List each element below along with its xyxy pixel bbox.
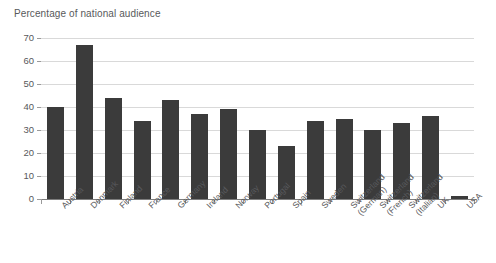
bar-slot	[243, 38, 272, 199]
chart-title: Percentage of national audience	[14, 8, 161, 19]
bar-slot	[272, 38, 301, 199]
x-axis-label-spain: Spain	[291, 204, 298, 211]
x-axis-label-ireland: Ireland	[205, 204, 212, 211]
x-axis-label-switzerland-french: Switzerland(French)	[378, 204, 392, 218]
x-axis-label-portugal: Portugal	[263, 204, 270, 211]
y-axis-tick-label-40: 40	[23, 102, 34, 112]
bar-slot	[156, 38, 185, 199]
x-axis-label-sweden: Sweden	[320, 204, 327, 211]
bar-slot	[99, 38, 128, 199]
bar-austria[interactable]	[47, 107, 64, 199]
x-axis-label-uk: UK	[436, 204, 443, 211]
bar-denmark[interactable]	[76, 45, 93, 199]
y-axis-tick-label-70: 70	[23, 33, 34, 43]
bar-slot	[185, 38, 214, 199]
x-axis-label-germany: Germany	[176, 204, 183, 211]
x-axis-label-usa: USA	[465, 204, 472, 211]
bar-slot	[330, 38, 359, 199]
x-axis-label-austria: Austria	[60, 204, 67, 211]
y-axis-tick-label-20: 20	[23, 148, 34, 158]
y-axis-tick-label-10: 10	[23, 171, 34, 181]
x-axis-label-norway: Norway	[234, 204, 241, 211]
y-axis-tick-label-50: 50	[23, 79, 34, 89]
y-axis-tick-label-60: 60	[23, 56, 34, 66]
x-axis-labels: AustriaDenmarkFinlandFranceGermanyIrelan…	[41, 204, 474, 263]
bar-slot	[70, 38, 99, 199]
y-axis-tick-label-30: 30	[23, 125, 34, 135]
bar-slot	[301, 38, 330, 199]
x-axis-label-switzerland-german: Switzerland(German)	[349, 204, 363, 218]
bar-slot	[128, 38, 157, 199]
bar-chart: Percentage of national audience 01020304…	[0, 0, 496, 263]
x-axis-label-denmark: Denmark	[89, 204, 96, 211]
bar-sweden[interactable]	[307, 121, 324, 199]
bar-slot	[445, 38, 474, 199]
x-axis-label-switzerland-italian: Switzerland(Italian)	[407, 204, 421, 218]
bar-slot	[214, 38, 243, 199]
x-axis-label-france: France	[147, 204, 154, 211]
y-axis-tick-label-0: 0	[29, 194, 34, 204]
bar-slot	[41, 38, 70, 199]
x-axis-label-finland: Finland	[118, 204, 125, 211]
